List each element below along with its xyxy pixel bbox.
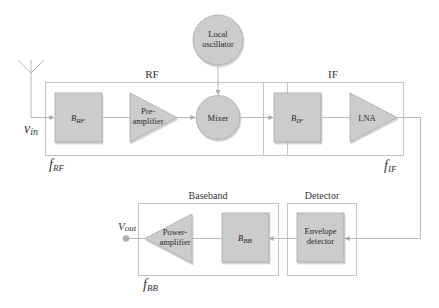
bb-frequency-label: fBB xyxy=(143,277,158,293)
rf-frequency-label: fRF xyxy=(49,157,64,173)
rf-group-title: RF xyxy=(145,68,158,80)
antenna-icon xyxy=(18,60,44,118)
output-signal-label: Vout xyxy=(118,220,137,233)
detector-group-title: Detector xyxy=(305,190,340,201)
mixer-label: Mixer xyxy=(208,113,229,123)
lna-label: LNA xyxy=(358,113,376,123)
power-amplifier-label: Power-amplifier xyxy=(159,227,190,247)
output-terminal-icon xyxy=(123,235,129,241)
input-signal-label: vin xyxy=(24,121,38,137)
if-group-title: IF xyxy=(328,68,338,80)
receiver-block-diagram: RF IF Baseband Detector fRF fIF fBB vin … xyxy=(0,0,439,308)
envelope-detector-label: Envelopedetector xyxy=(304,226,336,246)
if-frequency-label: fIF xyxy=(384,158,397,174)
baseband-group-title: Baseband xyxy=(189,190,228,201)
